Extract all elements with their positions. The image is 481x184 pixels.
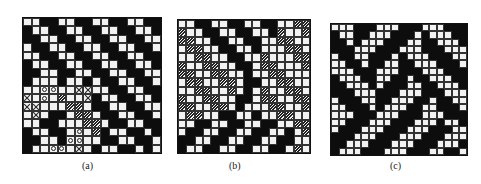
white-cell: [203, 37, 211, 45]
black-cell: [429, 140, 437, 147]
white-cell: [219, 95, 227, 103]
white-cell: [261, 78, 269, 86]
black-cell: [452, 111, 460, 118]
black-cell: [109, 18, 118, 26]
white-cell: [376, 111, 384, 118]
white-cell: [391, 111, 399, 118]
white-cell: [285, 20, 293, 28]
black-cell: [429, 126, 437, 133]
black-cell: [414, 140, 422, 147]
hatched-cell: [203, 95, 211, 103]
black-cell: [219, 128, 227, 136]
black-cell: [127, 94, 136, 102]
black-cell: [369, 68, 377, 75]
white-cell: [339, 31, 347, 38]
hatched-cell: [195, 53, 203, 61]
black-cell: [346, 89, 354, 96]
black-cell: [376, 104, 384, 111]
hatched-cell: [228, 87, 236, 95]
white-cell: [109, 35, 118, 43]
black-cell: [414, 104, 422, 111]
circle-mark-cell: [66, 136, 75, 144]
hatched-cell: [228, 78, 236, 86]
white-cell: [302, 78, 310, 86]
black-cell: [135, 43, 144, 51]
black-cell: [331, 89, 339, 96]
black-cell: [32, 69, 41, 77]
white-cell: [32, 128, 41, 136]
black-cell: [186, 128, 194, 136]
black-cell: [339, 140, 347, 147]
white-cell: [66, 77, 75, 85]
white-cell: [244, 103, 252, 111]
circle-mark-cell: [40, 86, 49, 94]
white-cell: [277, 87, 285, 95]
hatched-cell: [294, 95, 302, 103]
white-cell: [40, 136, 49, 144]
black-cell: [361, 68, 369, 75]
black-cell: [58, 128, 67, 136]
white-cell: [118, 111, 127, 119]
white-cell: [384, 68, 392, 75]
white-cell: [346, 31, 354, 38]
white-cell: [152, 145, 161, 153]
white-cell: [109, 145, 118, 153]
black-cell: [109, 43, 118, 51]
white-cell: [459, 60, 467, 67]
black-cell: [422, 75, 430, 82]
white-cell: [186, 20, 194, 28]
black-cell: [127, 26, 136, 34]
hatched-cell: [211, 70, 219, 78]
black-cell: [407, 111, 415, 118]
black-cell: [422, 82, 430, 89]
black-cell: [339, 89, 347, 96]
white-cell: [144, 60, 153, 68]
white-cell: [414, 119, 422, 126]
white-cell: [391, 97, 399, 104]
black-cell: [127, 35, 136, 43]
black-cell: [429, 53, 437, 60]
white-cell: [236, 136, 244, 144]
hatched-cell: [195, 87, 203, 95]
black-cell: [422, 148, 430, 155]
black-cell: [452, 104, 460, 111]
white-cell: [32, 18, 41, 26]
hatched-cell: [186, 111, 194, 119]
white-cell: [452, 89, 460, 96]
hatched-cell: [302, 62, 310, 70]
white-cell: [261, 28, 269, 36]
white-cell: [346, 39, 354, 46]
black-cell: [236, 62, 244, 70]
white-cell: [422, 111, 430, 118]
white-cell: [339, 24, 347, 31]
white-cell: [285, 120, 293, 128]
white-cell: [144, 35, 153, 43]
white-cell: [195, 136, 203, 144]
white-cell: [285, 103, 293, 111]
white-cell: [23, 86, 32, 94]
white-cell: [376, 24, 384, 31]
white-cell: [40, 111, 49, 119]
hatched-cell: [211, 95, 219, 103]
black-cell: [437, 89, 445, 96]
black-cell: [109, 136, 118, 144]
white-cell: [195, 37, 203, 45]
white-cell: [294, 103, 302, 111]
black-cell: [444, 126, 452, 133]
black-cell: [452, 68, 460, 75]
white-cell: [294, 28, 302, 36]
white-cell: [459, 148, 467, 155]
white-cell: [339, 60, 347, 67]
black-cell: [92, 35, 101, 43]
white-cell: [384, 148, 392, 155]
white-cell: [399, 104, 407, 111]
white-cell: [236, 70, 244, 78]
black-cell: [49, 128, 58, 136]
white-cell: [203, 45, 211, 53]
white-cell: [92, 43, 101, 51]
hatched-cell: [178, 37, 186, 45]
hatched-cell: [83, 111, 92, 119]
white-cell: [66, 119, 75, 127]
black-cell: [391, 39, 399, 46]
white-cell: [219, 53, 227, 61]
